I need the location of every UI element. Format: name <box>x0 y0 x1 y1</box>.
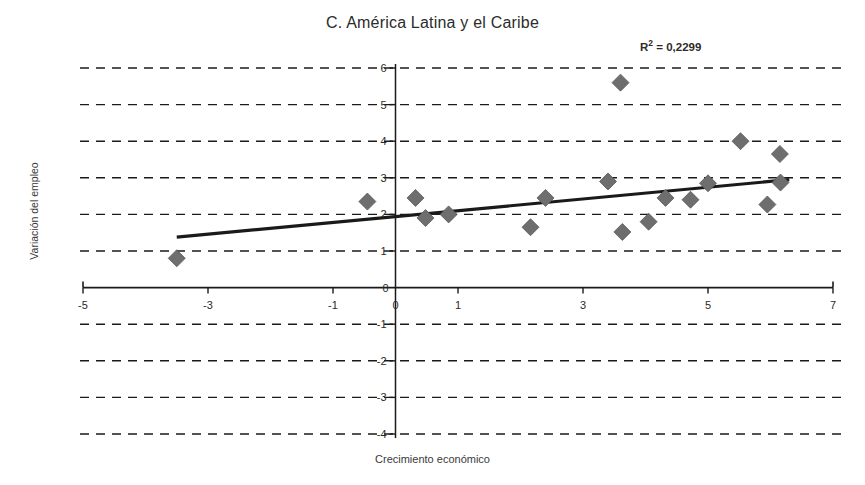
y-tick-label: 3 <box>380 172 386 184</box>
y-tick-label: 1 <box>380 245 386 257</box>
x-tick-label: 0 <box>392 299 398 311</box>
data-point <box>614 223 631 240</box>
trendline <box>177 180 790 237</box>
y-tick-label: -3 <box>377 391 387 403</box>
x-tick-label: -5 <box>78 299 88 311</box>
x-tick-label: 1 <box>455 299 461 311</box>
y-tick-label: 5 <box>380 99 386 111</box>
data-point <box>771 146 788 163</box>
y-tick-label: 4 <box>380 135 386 147</box>
y-tick-label: -1 <box>377 318 387 330</box>
x-tick-label: 7 <box>830 299 836 311</box>
data-point <box>772 174 789 191</box>
y-tick-label: 0 <box>382 282 388 294</box>
data-point <box>682 191 699 208</box>
data-point <box>407 189 424 206</box>
data-point <box>168 250 185 267</box>
x-tick-label: -3 <box>203 299 213 311</box>
data-point <box>732 133 749 150</box>
data-point <box>440 206 457 223</box>
data-point <box>359 193 376 210</box>
data-point <box>640 213 657 230</box>
y-tick-label: 6 <box>380 62 386 74</box>
chart-container: C. América Latina y el Caribe R2 = 0,229… <box>0 0 865 485</box>
x-tick-label: -1 <box>328 299 338 311</box>
scatter-plot: -5-3-101357-4-3-2-10123456 <box>0 0 865 485</box>
data-point <box>522 219 539 236</box>
y-tick-label: -4 <box>377 428 387 440</box>
data-point <box>759 196 776 213</box>
y-tick-label: -2 <box>377 355 387 367</box>
x-tick-label: 5 <box>705 299 711 311</box>
data-point <box>612 74 629 91</box>
x-tick-label: 3 <box>580 299 586 311</box>
data-point <box>600 173 617 190</box>
